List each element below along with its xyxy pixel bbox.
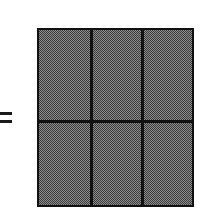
horizontal-divider-1 xyxy=(39,120,192,123)
vertical-divider-1 xyxy=(90,30,93,205)
vertical-divider-2 xyxy=(141,30,144,205)
shaded-rectangle: r1c1 r1c2 r1c3 r2c1 r2c2 r2c3 xyxy=(37,28,194,207)
figure-canvas: r1c1 r1c2 r1c3 r2c1 r2c2 r2c3 xyxy=(0,0,204,220)
equals-sign xyxy=(0,111,12,125)
equals-bar-top xyxy=(0,112,12,115)
cell-grid: r1c1 r1c2 r1c3 r2c1 r2c2 r2c3 xyxy=(39,30,192,205)
equals-bar-bottom xyxy=(0,120,12,123)
